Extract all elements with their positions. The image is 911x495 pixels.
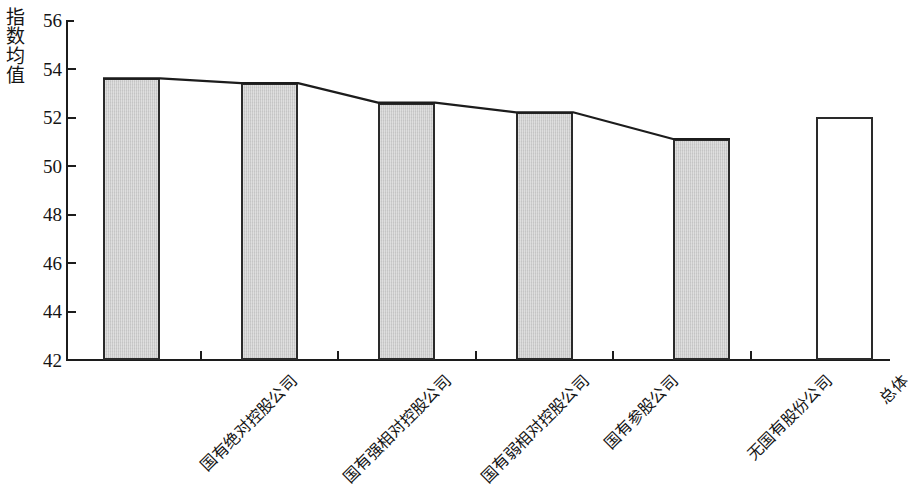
x-category-label-3: 国有参股公司 bbox=[601, 372, 681, 452]
bar-guoyou-juedui-konggu bbox=[103, 78, 160, 360]
y-tick-label-52: 52 bbox=[30, 108, 62, 127]
y-axis-top-cap bbox=[66, 20, 74, 22]
bar-guoyou-ruo-xiangdui bbox=[378, 103, 435, 360]
y-tick-46 bbox=[68, 262, 76, 264]
x-category-label-4: 无国有股份公司 bbox=[744, 372, 835, 463]
y-tick-48 bbox=[68, 214, 76, 216]
y-tick-label-48: 48 bbox=[30, 205, 62, 224]
y-tick-label-54: 54 bbox=[30, 60, 62, 79]
y-tick-44 bbox=[68, 311, 76, 313]
y-tick-label-44: 44 bbox=[30, 302, 62, 321]
y-tick-52 bbox=[68, 117, 76, 119]
x-category-label-0: 国有绝对控股公司 bbox=[197, 372, 300, 475]
x-category-label-2: 国有弱相对控股公司 bbox=[478, 372, 592, 486]
bar-zongti bbox=[816, 117, 873, 360]
y-tick-label-46: 46 bbox=[30, 254, 62, 273]
x-tick-boundary-5 bbox=[750, 351, 752, 360]
y-tick-label-42: 42 bbox=[30, 351, 62, 370]
x-tick-boundary-4 bbox=[612, 351, 614, 360]
y-axis-title: 指数均值 bbox=[2, 8, 28, 86]
x-tick-boundary-3 bbox=[475, 351, 477, 360]
y-axis-line bbox=[66, 20, 68, 361]
x-axis-line bbox=[66, 359, 890, 361]
x-category-label-5: 总体 bbox=[876, 372, 911, 407]
bar-guoyou-qiang-xiangdui bbox=[241, 83, 298, 360]
bar-wuguoyou-gufen bbox=[673, 139, 730, 360]
x-category-label-1: 国有强相对控股公司 bbox=[340, 372, 454, 486]
y-tick-50 bbox=[68, 165, 76, 167]
x-tick-boundary-1 bbox=[200, 351, 202, 360]
bar-guoyou-cangu bbox=[516, 112, 573, 360]
y-tick-label-50: 50 bbox=[30, 157, 62, 176]
y-tick-label-56: 56 bbox=[30, 11, 62, 30]
x-tick-boundary-2 bbox=[337, 351, 339, 360]
y-tick-54 bbox=[68, 68, 76, 70]
